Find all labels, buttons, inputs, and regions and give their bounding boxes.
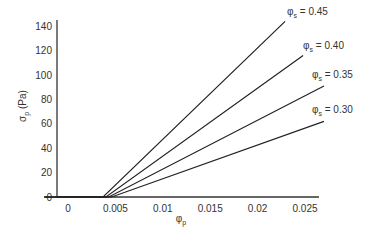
- series-line: [44, 55, 303, 197]
- series-label: φs = 0.45: [287, 6, 328, 19]
- series-label: φs = 0.35: [312, 69, 353, 82]
- x-tick-label: 0.005: [103, 203, 128, 214]
- series-lines: [44, 21, 324, 197]
- x-tick-label: 0.01: [153, 203, 173, 214]
- y-tick-label: 80: [41, 94, 53, 105]
- y-tick-label: 100: [35, 70, 52, 81]
- y-tick-label: 120: [35, 45, 52, 56]
- series-line: [44, 21, 285, 197]
- x-axis-label: φp: [176, 213, 186, 227]
- series-line: [44, 121, 324, 197]
- x-tick-label: 0.015: [198, 203, 223, 214]
- y-tick-label: 140: [35, 21, 52, 32]
- y-tick-label: 60: [41, 118, 53, 129]
- x-tick-label: 0: [65, 203, 71, 214]
- series-label: φs = 0.40: [303, 40, 344, 53]
- y-tick-labels: 020406080100120140: [35, 21, 52, 203]
- y-axis-label: σp (Pa): [17, 90, 31, 122]
- x-tick-label: 0.02: [248, 203, 268, 214]
- y-tick-label: 40: [41, 143, 53, 154]
- series-labels: φs = 0.45φs = 0.40φs = 0.35φs = 0.30: [287, 6, 353, 117]
- y-tick-label: 20: [41, 167, 53, 178]
- series-label: φs = 0.30: [312, 104, 353, 117]
- x-tick-labels: 00.0050.010.0150.020.025: [65, 203, 318, 214]
- x-tick-label: 0.025: [292, 203, 317, 214]
- chart: 00.0050.010.0150.020.025 020406080100120…: [0, 0, 372, 235]
